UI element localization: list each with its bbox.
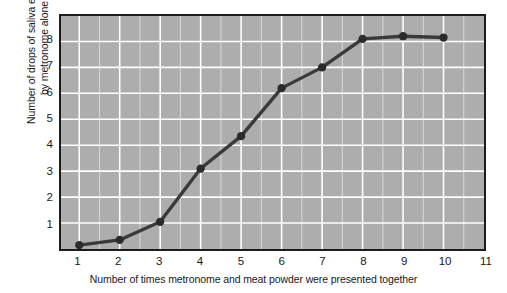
y-tick-label-1: 1 xyxy=(37,219,53,231)
x-tick-label-5: 5 xyxy=(229,256,253,268)
x-tick-label-1: 1 xyxy=(65,256,89,268)
y-axis-title: Number of drops of saliva elicited by me… xyxy=(25,0,51,156)
y-tick-label-8: 8 xyxy=(37,34,53,46)
y-tick-label-5: 5 xyxy=(37,113,53,125)
x-tick-label-8: 8 xyxy=(351,256,375,268)
y-tick-label-6: 6 xyxy=(37,87,53,99)
x-tick-label-10: 10 xyxy=(433,256,457,268)
plot-area xyxy=(59,14,486,251)
y-axis-title-line2: by metronome alone xyxy=(38,0,51,156)
x-tick-label-9: 9 xyxy=(392,256,416,268)
x-tick-label-11: 11 xyxy=(474,256,498,268)
y-tick-label-3: 3 xyxy=(37,166,53,178)
y-tick-label-2: 2 xyxy=(37,192,53,204)
x-tick-label-4: 4 xyxy=(188,256,212,268)
data-series-line xyxy=(61,16,484,249)
y-tick-label-7: 7 xyxy=(37,60,53,72)
x-tick-label-7: 7 xyxy=(311,256,335,268)
x-tick-label-2: 2 xyxy=(106,256,130,268)
y-tick-label-4: 4 xyxy=(37,139,53,151)
x-tick-label-3: 3 xyxy=(147,256,171,268)
chart-figure: Number of drops of saliva elicited by me… xyxy=(0,0,507,293)
x-axis-title: Number of times metronome and meat powde… xyxy=(0,273,507,285)
y-axis-title-line1: Number of drops of saliva elicited xyxy=(25,0,38,156)
x-tick-label-6: 6 xyxy=(270,256,294,268)
